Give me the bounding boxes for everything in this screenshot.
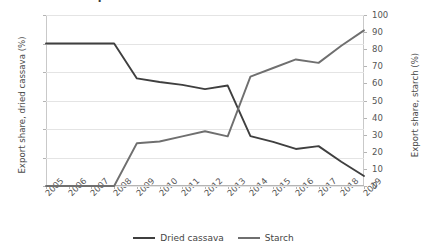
right-tick-mark (364, 118, 367, 119)
right-tick-label: 90 (372, 28, 402, 37)
legend-label: Dried cassava (160, 233, 223, 243)
left-axis-title: Export share, dried cassava (%) (17, 20, 27, 190)
line-chart: Export shares of dried cassava and starc… (0, 0, 427, 247)
right-tick-mark (364, 135, 367, 136)
right-tick-label: 80 (372, 45, 402, 54)
right-tick-mark (364, 83, 367, 84)
right-tick-label: 30 (372, 131, 402, 140)
right-tick-mark (364, 32, 367, 33)
series-lines (46, 15, 364, 186)
right-tick-label: 70 (372, 62, 402, 71)
right-tick-label: 100 (372, 11, 402, 20)
legend-item[interactable]: Dried cassava (133, 233, 223, 243)
right-tick-label: 40 (372, 114, 402, 123)
chart-title: Export shares of dried cassava and starc… (0, 0, 427, 2)
right-tick-mark (364, 152, 367, 153)
x-tick-mark (364, 186, 365, 189)
right-tick-mark (364, 169, 367, 170)
plot-area (46, 15, 364, 186)
right-tick-label: 20 (372, 148, 402, 157)
legend-line-icon (238, 237, 260, 239)
right-tick-mark (364, 15, 367, 16)
right-tick-label: 60 (372, 79, 402, 88)
right-tick-mark (364, 66, 367, 67)
right-tick-label: 50 (372, 97, 402, 106)
right-axis-title: Export share, starch (%) (410, 20, 420, 190)
series-line-starch (46, 30, 364, 186)
legend-item[interactable]: Starch (238, 233, 294, 243)
chart-legend: Dried cassavaStarch (0, 233, 427, 243)
right-tick-mark (364, 49, 367, 50)
right-tick-mark (364, 101, 367, 102)
legend-line-icon (133, 237, 155, 239)
right-tick-label: 10 (372, 165, 402, 174)
legend-label: Starch (265, 233, 294, 243)
